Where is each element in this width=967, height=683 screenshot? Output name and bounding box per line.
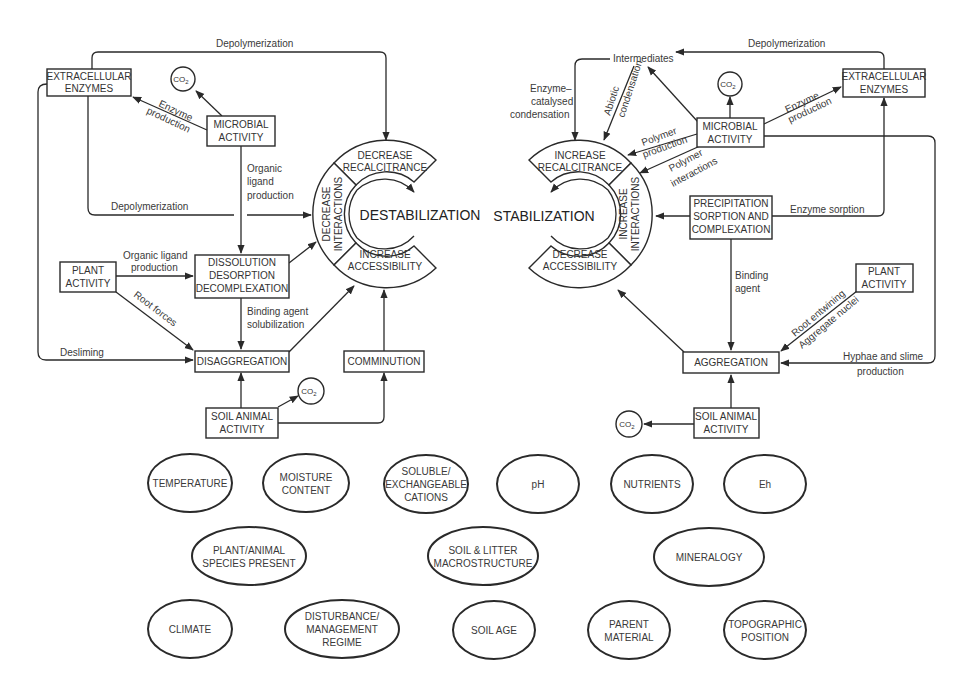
- ring-bottom-line1: INCREASE: [359, 249, 410, 260]
- label-organic-ligand-plant-1: Organic ligand: [123, 250, 187, 261]
- factor-label: CLIMATE: [169, 624, 212, 635]
- svg-text:DISSOLUTION: DISSOLUTION: [208, 257, 276, 268]
- svg-text:PLANT: PLANT: [868, 266, 900, 277]
- ring-side-line2: INTERACTIONS: [333, 176, 344, 251]
- node-dissolution: DISSOLUTION DESORPTION DECOMPLEXATION: [195, 255, 289, 298]
- node-extracellular-enzymes-left: EXTRACELLULAR ENZYMES: [46, 69, 131, 96]
- edge-enzyme-catalysed-condensation: [575, 59, 610, 140]
- node-co2-top-right: CO2: [718, 72, 742, 96]
- factor-label: CONTENT: [282, 485, 330, 496]
- label-enzyme-catalysed-1: Enzyme–: [530, 83, 572, 94]
- inner-cycle-arrow-right: [551, 179, 608, 192]
- label-enzyme-catalysed-3: condensation: [510, 109, 570, 120]
- stabilization-label: STABILIZATION: [493, 208, 594, 224]
- node-extracellular-enzymes-right: EXTRACELLULAR ENZYMES: [841, 69, 926, 97]
- inner-cycle-arrow: [357, 179, 414, 192]
- right-stabilization-panel: INCREASE RECALCITRANCE DECREASE ACCESSIB…: [493, 38, 935, 438]
- node-co2-bottom-left: CO2: [298, 378, 324, 404]
- edge-aggregation-ring: [618, 290, 684, 352]
- factor-label: SOIL AGE: [471, 625, 517, 636]
- factor-ellipse: pH: [497, 455, 579, 513]
- factor-label: MANAGEMENT: [306, 624, 378, 635]
- label-organic-1: Organic: [247, 163, 282, 174]
- edge-depolymerization-top-right: [676, 52, 884, 69]
- svg-text:EXTRACELLULAR: EXTRACELLULAR: [46, 71, 131, 82]
- factor-ellipse: NUTRIENTS: [611, 455, 693, 513]
- left-ring: DECREASE RECALCITRANCE INCREASE ACCESSIB…: [313, 140, 481, 287]
- label-binding: Binding: [735, 270, 768, 281]
- label-solubilization: solubilization: [247, 319, 304, 330]
- ring-bottom-line2: ACCESSIBILITY: [348, 261, 423, 272]
- label-hyphae-slime-1: Hyphae and slime: [843, 351, 923, 362]
- destabilization-label: DESTABILIZATION: [360, 207, 481, 223]
- factor-label: MOISTURE: [280, 472, 333, 483]
- label-enzyme-catalysed-2: catalysed: [531, 96, 573, 107]
- factor-ellipse: TEMPERATURE: [148, 454, 232, 512]
- svg-text:ACTIVITY: ACTIVITY: [707, 134, 752, 145]
- svg-text:DECOMPLEXATION: DECOMPLEXATION: [196, 283, 289, 294]
- factor-ellipse: PARENTMATERIAL: [588, 601, 670, 659]
- factor-label: DISTURBANCE/: [305, 611, 380, 622]
- svg-text:SORPTION AND: SORPTION AND: [693, 211, 769, 222]
- svg-text:AGGREGATION: AGGREGATION: [694, 357, 768, 368]
- label-depolymerization-mid: Depolymerization: [111, 201, 188, 212]
- svg-text:COMMINUTION: COMMINUTION: [348, 356, 421, 367]
- soil-organic-matter-diagram: DECREASE RECALCITRANCE INCREASE ACCESSIB…: [0, 0, 967, 683]
- node-co2-top-left: CO2: [171, 67, 195, 91]
- label-binding-agent: Binding agent: [247, 306, 308, 317]
- factor-label: MATERIAL: [604, 632, 654, 643]
- label-agent: agent: [735, 283, 760, 294]
- factor-label: TOPOGRAPHIC: [728, 619, 802, 630]
- edge-microbial-intermediates: [648, 67, 698, 122]
- factor-label: Eh: [759, 479, 771, 490]
- node-microbial-activity-left: MICROBIAL ACTIVITY: [207, 116, 275, 146]
- ring-side-line2-right: INTERACTIONS: [630, 176, 641, 251]
- svg-text:ACTIVITY: ACTIVITY: [861, 279, 906, 290]
- svg-text:DISAGGREGATION: DISAGGREGATION: [197, 356, 287, 367]
- factor-ellipse: SOIL AGE: [453, 601, 535, 659]
- svg-text:ENZYMES: ENZYMES: [65, 83, 114, 94]
- label-organic-ligand-plant-2: production: [131, 262, 178, 273]
- inner-cycle-arc: [357, 236, 414, 249]
- node-soil-animal-activity-right: SOIL ANIMAL ACTIVITY: [694, 408, 759, 438]
- svg-text:DESORPTION: DESORPTION: [209, 270, 275, 281]
- svg-text:MICROBIAL: MICROBIAL: [213, 119, 268, 130]
- factor-ellipse: DISTURBANCE/MANAGEMENTREGIME: [285, 600, 399, 658]
- factor-ellipse: SOLUBLE/EXCHANGEABLECATIONS: [384, 455, 468, 513]
- factor-ellipse: TOPOGRAPHICPOSITION: [724, 601, 806, 659]
- ring-top-line1-right: INCREASE: [554, 150, 605, 161]
- node-comminution: COMMINUTION: [344, 351, 424, 372]
- svg-text:EXTRACELLULAR: EXTRACELLULAR: [841, 71, 926, 82]
- factor-label: NUTRIENTS: [623, 479, 681, 490]
- ring-bottom-line2-right: ACCESSIBILITY: [543, 261, 618, 272]
- factor-label: TEMPERATURE: [153, 478, 228, 489]
- left-destabilization-panel: DECREASE RECALCITRANCE INCREASE ACCESSIB…: [38, 38, 480, 438]
- svg-text:MICROBIAL: MICROBIAL: [702, 121, 757, 132]
- label-production-3: production: [247, 190, 294, 201]
- controlling-factors: TEMPERATUREMOISTURECONTENTSOLUBLE/EXCHAN…: [148, 454, 806, 659]
- label-depolymerization-top-right: Depolymerization: [748, 38, 825, 49]
- node-precipitation: PRECIPITATION SORPTION AND COMPLEXATION: [690, 196, 772, 239]
- factor-ellipse: CLIMATE: [148, 600, 232, 658]
- svg-text:PLANT: PLANT: [72, 265, 104, 276]
- ring-top-line1: DECREASE: [357, 150, 412, 161]
- factor-label: MACROSTRUCTURE: [434, 558, 533, 569]
- factor-label: SOIL & LITTER: [448, 545, 517, 556]
- factor-ellipse: Eh: [724, 455, 806, 513]
- label-hyphae-slime-2: production: [857, 366, 904, 377]
- factor-label: pH: [532, 479, 545, 490]
- edge-soilanimal-co2: [278, 396, 298, 407]
- svg-text:SOIL ANIMAL: SOIL ANIMAL: [211, 411, 273, 422]
- node-co2-bottom-right: CO2: [616, 411, 642, 437]
- factor-label: REGIME: [322, 637, 362, 648]
- svg-text:ACTIVITY: ACTIVITY: [65, 278, 110, 289]
- svg-text:PRECIPITATION: PRECIPITATION: [693, 198, 768, 209]
- factor-label: MINERALOGY: [676, 552, 743, 563]
- node-plant-activity-right: PLANT ACTIVITY: [856, 264, 913, 292]
- ring-bottom-line1-right: DECREASE: [552, 249, 607, 260]
- edge-dissolution-ring: [289, 242, 316, 263]
- label-enzyme-sorption: Enzyme sorption: [790, 204, 864, 215]
- right-ring: INCREASE RECALCITRANCE DECREASE ACCESSIB…: [493, 140, 652, 287]
- ring-side-line1: DECREASE: [321, 186, 332, 241]
- factor-label: SOLUBLE/: [402, 466, 451, 477]
